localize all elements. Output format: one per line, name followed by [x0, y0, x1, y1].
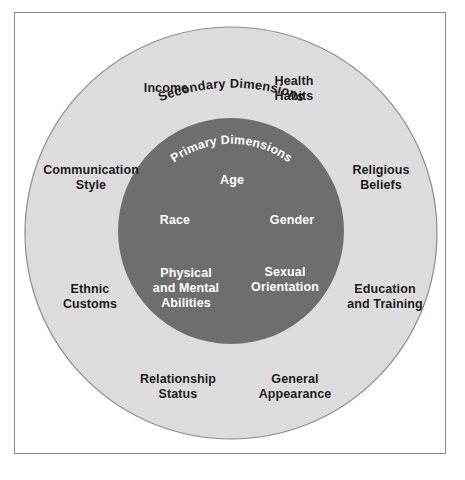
label-sexual-orientation: Sexual Orientation: [251, 265, 319, 295]
label-income: Income: [144, 81, 188, 96]
label-age: Age: [220, 173, 244, 188]
label-health-habits: Health Habits: [275, 74, 314, 104]
label-ethnic-customs: Ethnic Customs: [63, 282, 117, 312]
label-relationship-status: Relationship Status: [140, 372, 216, 402]
label-religious-beliefs: Religious Beliefs: [352, 163, 409, 193]
label-gender: Gender: [270, 213, 314, 228]
label-communication-style: Communication Style: [43, 163, 139, 193]
diversity-dimensions-diagram: Secondary Dimensions Primary Dimensions …: [0, 0, 465, 480]
label-general-appearance: General Appearance: [259, 372, 332, 402]
concentric-circles: Secondary Dimensions Primary Dimensions: [0, 0, 465, 480]
label-physical-and-mental-abilities: Physical and Mental Abilities: [153, 266, 219, 310]
label-race: Race: [160, 213, 190, 228]
label-education-and-training: Education and Training: [347, 282, 423, 312]
